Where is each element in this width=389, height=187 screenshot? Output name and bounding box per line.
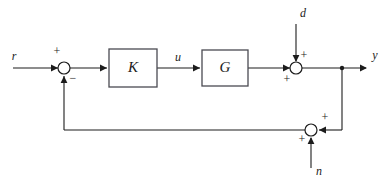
summing-junction-disturbance-sum[interactable] [290,62,302,74]
signal-label-reference: r [12,49,17,63]
block-label-controller: K [127,59,139,75]
arrowhead-arrow-output [360,65,367,72]
summing-junction-noise-sum[interactable] [305,124,317,136]
sum-circle-disturbance-sum [290,62,302,74]
sign-error-sum-0: + [54,44,61,58]
signal-label-layer: rudyn [12,6,379,178]
summing-junction-error-sum[interactable] [58,62,70,74]
feedback-control-block-diagram: KG +−++++ rudyn [0,0,389,187]
branch-point-layer [340,66,344,70]
arrowhead-arrow-into-error-sum [51,65,58,72]
sum-circle-error-sum [58,62,70,74]
arrowhead-arrow-into-controller [100,65,107,72]
block-plant[interactable]: G [202,50,248,86]
sign-noise-sum-1: + [299,132,306,146]
wire-layer [13,24,366,168]
arrowhead-arrow-into-noise-sum-right [319,127,326,134]
signal-label-control: u [175,50,181,64]
block-diagram-canvas: KG +−++++ rudyn [0,0,389,187]
arrowhead-arrow-into-disturbance-sum [283,65,290,72]
arrowhead-arrow-noise-up [308,137,315,144]
sign-disturbance-sum-0: + [301,48,308,62]
arrowhead-arrow-feedback-up [61,76,68,83]
sign-noise-sum-0: + [322,110,329,124]
sum-circle-noise-sum [305,124,317,136]
branch-dot-output-branch [340,66,344,70]
signal-label-disturbance: d [300,6,307,20]
block-controller[interactable]: K [109,49,157,87]
sign-disturbance-sum-1: + [284,72,291,86]
sign-error-sum-1: − [70,71,77,85]
block-label-plant: G [220,59,231,75]
signal-label-noise: n [316,164,322,178]
arrowhead-arrow-disturbance-down [293,55,300,62]
signal-label-output: y [371,48,378,62]
arrowhead-arrow-into-plant [193,65,200,72]
